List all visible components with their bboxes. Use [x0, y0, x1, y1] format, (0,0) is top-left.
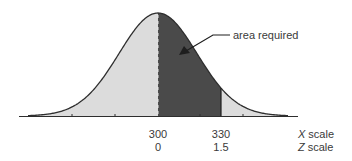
x-scale-word: scale — [308, 128, 334, 140]
z-scale-var: Z — [297, 141, 306, 153]
normal-distribution-chart: area required 300 330 0 1.5 Xscale Zscal… — [0, 0, 352, 161]
x-scale-var: X — [297, 128, 306, 140]
z-scale-label: Zscale — [297, 141, 333, 153]
z-tick-label-0: 0 — [155, 141, 161, 153]
x-tick-label-300: 300 — [149, 128, 167, 140]
z-tick-label-1.5: 1.5 — [213, 141, 228, 153]
chart-canvas: area required 300 330 0 1.5 Xscale Zscal… — [0, 0, 352, 161]
annotation-label: area required — [233, 29, 298, 41]
z-scale-word: scale — [308, 141, 334, 153]
shaded-area-required — [158, 13, 221, 116]
x-tick-label-330: 330 — [212, 128, 230, 140]
x-scale-label: Xscale — [297, 128, 334, 140]
